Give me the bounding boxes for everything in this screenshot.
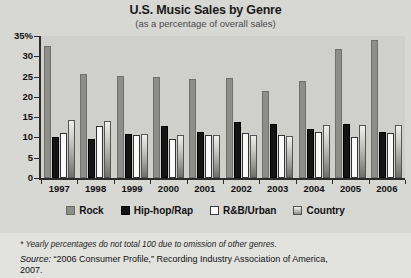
footnote-text: * Yearly percentages do not total 100 du…: [20, 239, 400, 249]
source-text: Source: “2006 Consumer Profile,” Recordi…: [20, 254, 405, 265]
bar: [117, 76, 124, 178]
bar: [315, 132, 322, 178]
x-axis-line: [39, 178, 405, 180]
chart-title: U.S. Music Sales by Genre: [0, 3, 411, 18]
bar: [250, 135, 257, 178]
y-tick-label-25: 25: [1, 71, 33, 82]
bar-group-2001: [187, 36, 223, 178]
bar-group-1999: [114, 36, 150, 178]
y-tick-label-30: 30: [1, 50, 33, 61]
x-tick-label-2001: 2001: [187, 183, 223, 197]
bar-group-2005: [332, 36, 368, 178]
x-tick-label-2003: 2003: [259, 183, 295, 197]
bar: [133, 135, 140, 178]
source-body: “2006 Consumer Profile,” Recording Indus…: [51, 254, 328, 264]
x-tick-label-2000: 2000: [150, 183, 186, 197]
bars-container: [41, 36, 405, 178]
bar-group-2000: [150, 36, 186, 178]
x-tick-label-1999: 1999: [114, 183, 150, 197]
bar-group-1998: [77, 36, 113, 178]
x-tick-end: [405, 180, 406, 184]
y-tick-label-35: 35%: [1, 30, 33, 41]
legend-label: Country: [306, 205, 344, 216]
bar-group-1997: [41, 36, 77, 178]
legend-label: R&B/Urban: [223, 205, 276, 216]
bar: [351, 137, 358, 178]
legend-item-rock[interactable]: Rock: [66, 205, 103, 216]
y-tick-label-5: 5: [1, 152, 33, 163]
y-tick-label-15: 15: [1, 111, 33, 122]
source-label: Source:: [20, 254, 51, 264]
bar: [213, 135, 220, 178]
bar: [371, 40, 378, 178]
x-tick-label-2004: 2004: [296, 183, 332, 197]
bar: [169, 139, 176, 178]
bar: [125, 134, 132, 178]
notes-panel: * Yearly percentages do not total 100 du…: [0, 233, 411, 278]
bar: [153, 77, 160, 178]
bar: [323, 125, 330, 178]
legend-swatch-icon: [66, 206, 75, 215]
bar: [278, 135, 285, 178]
bar: [335, 49, 342, 178]
bar: [395, 125, 402, 178]
bar-group-2003: [259, 36, 295, 178]
bar: [307, 129, 314, 178]
bar: [387, 133, 394, 178]
bar: [189, 79, 196, 178]
bar: [359, 125, 366, 178]
bar: [96, 126, 103, 178]
source-year: 2007.: [20, 265, 43, 275]
y-axis-labels: 05101520253035%: [0, 0, 33, 233]
chart-panel: U.S. Music Sales by Genre (as a percenta…: [0, 0, 411, 233]
chart-legend: RockHip-hop/RapR&B/UrbanCountry: [0, 201, 411, 219]
bar: [299, 81, 306, 178]
legend-label: Rock: [79, 205, 103, 216]
bar: [177, 135, 184, 178]
title-block: U.S. Music Sales by Genre (as a percenta…: [0, 3, 411, 30]
legend-item-country[interactable]: Country: [293, 205, 344, 216]
bar: [68, 120, 75, 178]
x-tick-label-2002: 2002: [223, 183, 259, 197]
legend-item-hip-hop-rap[interactable]: Hip-hop/Rap: [121, 205, 193, 216]
y-tick-label-10: 10: [1, 131, 33, 142]
y-tick-label-20: 20: [1, 91, 33, 102]
bar-group-2004: [296, 36, 332, 178]
bar-group-2002: [223, 36, 259, 178]
bar: [104, 121, 111, 178]
bar: [270, 124, 277, 178]
bar: [197, 132, 204, 178]
bar: [88, 139, 95, 178]
y-tick-label-0: 0: [1, 172, 33, 183]
bar: [286, 136, 293, 178]
bar: [226, 78, 233, 178]
bar: [242, 133, 249, 178]
x-tick-label-1998: 1998: [77, 183, 113, 197]
x-tick-label-1997: 1997: [41, 183, 77, 197]
legend-swatch-icon: [293, 206, 302, 215]
bar: [52, 137, 59, 178]
bar: [205, 135, 212, 178]
bar: [379, 132, 386, 178]
bar: [343, 124, 350, 178]
legend-item-r-b-urban[interactable]: R&B/Urban: [210, 205, 276, 216]
bar-group-2006: [369, 36, 405, 178]
x-tick-label-2006: 2006: [369, 183, 405, 197]
legend-label: Hip-hop/Rap: [134, 205, 193, 216]
bar: [141, 134, 148, 178]
bar: [234, 122, 241, 178]
bar: [262, 91, 269, 178]
x-axis-labels: 1997199819992000200120022003200420052006: [41, 183, 405, 197]
bar: [161, 126, 168, 178]
bar: [44, 46, 51, 178]
legend-swatch-icon: [210, 206, 219, 215]
bar: [60, 133, 67, 178]
legend-swatch-icon: [121, 206, 130, 215]
bar: [80, 74, 87, 178]
x-tick-label-2005: 2005: [332, 183, 368, 197]
chart-subtitle: (as a percentage of overall sales): [0, 18, 411, 30]
